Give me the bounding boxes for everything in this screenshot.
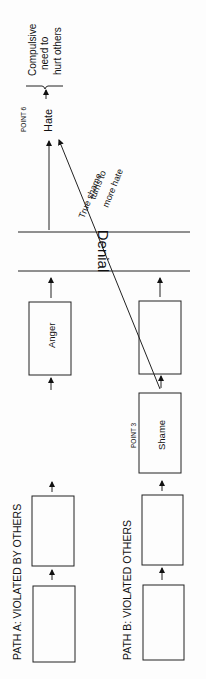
path-b-box-2 (142, 495, 183, 565)
svg-text:need to: need to (39, 36, 50, 70)
path-b-box-1 (143, 585, 184, 660)
point6-label: POINT 6 (20, 106, 27, 132)
diagram-canvas: PATH A: VIOLATED BY OTHERS PATH B: VIOLA… (0, 0, 206, 679)
shame-label: Shame (156, 420, 167, 450)
svg-text:Compulsive: Compulsive (27, 23, 38, 76)
path-a-label: PATH A: VIOLATED BY OTHERS (11, 504, 23, 660)
outcome-brace (26, 86, 63, 89)
denial-label: Denial (95, 230, 112, 273)
path-a-box-2 (32, 496, 74, 566)
anger-label: Anger (46, 323, 57, 348)
path-a-box-1 (33, 586, 75, 662)
path-b-box-4 (139, 301, 181, 374)
diagram-svg: PATH A: VIOLATED BY OTHERS PATH B: VIOLA… (0, 0, 206, 679)
svg-text:hurt others: hurt others (52, 27, 63, 75)
point3-label: POINT 3 (130, 422, 137, 448)
diagonal-label: True shame turns to more hate (77, 167, 125, 219)
outcome-text: Compulsive need to hurt others (27, 23, 63, 76)
path-b-label: PATH B: VIOLATED OTHERS (121, 520, 133, 660)
hate-label: Hate (42, 109, 54, 132)
